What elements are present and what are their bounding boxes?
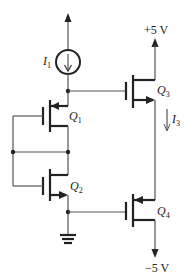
- transistor-q3: [126, 75, 155, 108]
- q1-label-sub: 1: [78, 116, 82, 125]
- q2-label-main: Q: [70, 179, 79, 193]
- q4-label-main: Q: [157, 204, 166, 218]
- current-arrow-i3: [164, 109, 170, 131]
- q1-label-main: Q: [69, 109, 78, 123]
- transistor-q4: [126, 194, 155, 227]
- q2-label-sub: 2: [79, 186, 83, 195]
- q4-label: Q4: [157, 205, 170, 220]
- q2-label: Q2: [70, 180, 83, 195]
- vss-label: −5 V: [145, 262, 169, 274]
- i3-label: I3: [172, 113, 180, 128]
- node-gate-left: [11, 150, 15, 154]
- q3-label-main: Q: [157, 83, 166, 97]
- q3-label-sub: 3: [166, 90, 170, 99]
- left-supply-arrow: [65, 13, 72, 50]
- current-source-i1: [56, 50, 80, 74]
- vdd-arrow: [152, 38, 159, 80]
- node-middle: [66, 150, 70, 154]
- circuit-diagram: [0, 0, 194, 280]
- ground-icon: [60, 235, 76, 243]
- i1-label: I1: [43, 55, 51, 70]
- i1-label-sub: 1: [47, 61, 51, 70]
- q1-label: Q1: [69, 110, 82, 125]
- transistor-q1: [13, 100, 68, 132]
- q3-label: Q3: [157, 84, 170, 99]
- i3-label-sub: 3: [176, 119, 180, 128]
- q4-label-sub: 4: [166, 211, 170, 220]
- vdd-label: +5 V: [144, 24, 168, 36]
- vss-arrow: [152, 220, 159, 258]
- transistor-q2: [13, 169, 68, 201]
